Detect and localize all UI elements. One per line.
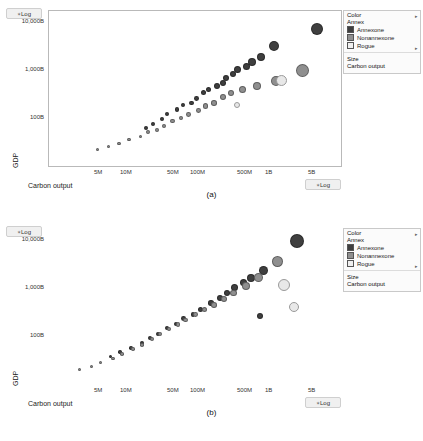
data-point[interactable] [165, 112, 169, 116]
data-point[interactable] [175, 107, 179, 111]
x-scale-pill-b[interactable]: ✶ Log [305, 397, 341, 408]
data-point[interactable] [189, 101, 194, 106]
data-point[interactable] [160, 117, 164, 121]
data-point[interactable] [194, 96, 199, 101]
data-point[interactable] [211, 302, 217, 308]
data-point[interactable] [90, 365, 93, 368]
x-scale-pill-a[interactable]: ✶ Log [305, 179, 341, 190]
data-point[interactable] [201, 90, 206, 95]
data-point[interactable] [224, 290, 230, 296]
legend-b[interactable]: Color Annex Annexone Nonannexone Rogue S… [343, 228, 421, 292]
data-point[interactable] [228, 90, 234, 96]
data-point[interactable] [78, 368, 81, 371]
data-point[interactable] [206, 87, 211, 92]
y-axis-title-b: GDP [12, 371, 19, 386]
data-point[interactable] [272, 256, 283, 267]
legend-swatch-nonannexone-icon-b [347, 252, 354, 259]
data-point[interactable] [176, 322, 180, 326]
x-scale-pill-label-b: Log [320, 400, 330, 406]
x-tick-a-3: 100M [190, 169, 205, 175]
legend-item-nonannexone-a[interactable]: Nonannexone [347, 34, 417, 41]
legend-color-menu-icon-b[interactable]: ▸ [415, 231, 418, 237]
legend-a[interactable]: Color Annex Annexone Nonannexone Rogue S… [343, 10, 421, 74]
data-point[interactable] [196, 108, 201, 113]
data-point[interactable] [242, 282, 250, 290]
data-point[interactable] [203, 103, 208, 108]
data-point[interactable] [257, 313, 263, 319]
data-point[interactable] [239, 86, 246, 93]
data-point[interactable] [158, 332, 162, 336]
scatter-panel-b[interactable] [48, 228, 340, 383]
legend-item-rogue-a[interactable]: Rogue [347, 42, 417, 49]
data-point[interactable] [120, 352, 124, 356]
x-tick-b-0: 5M [94, 387, 102, 393]
data-point[interactable] [111, 357, 114, 360]
legend-item-annexone-b[interactable]: Annexone [347, 244, 417, 251]
x-tick-b-4: 500M [237, 387, 252, 393]
data-point[interactable] [220, 94, 226, 100]
data-point[interactable] [220, 80, 226, 86]
data-point[interactable] [202, 307, 207, 312]
x-tick-a-4: 500M [237, 169, 252, 175]
y-tick-a-1: 1,000B [8, 66, 44, 72]
legend-label-nonannexone-b: Nonannexone [357, 253, 394, 259]
data-point[interactable] [170, 119, 174, 123]
y-tick-b-0: 10,000B [8, 236, 44, 242]
scatter-panel-a[interactable] [48, 10, 342, 167]
legend-color-section-b: Color Annex Annexone Nonannexone Rogue [344, 229, 420, 268]
data-point[interactable] [230, 71, 236, 77]
y-scale-pill-label-b: Log [21, 229, 31, 235]
data-point[interactable] [99, 361, 102, 364]
y-tick-b-1: 1,000B [8, 284, 44, 290]
legend-color-menu-icon-a[interactable]: ▸ [415, 13, 418, 19]
data-point[interactable] [107, 145, 110, 148]
legend-size-menu-icon-a[interactable]: ▸ [415, 45, 418, 51]
data-point[interactable] [183, 318, 188, 323]
data-point[interactable] [181, 103, 185, 107]
data-point[interactable] [311, 23, 323, 35]
data-point[interactable] [193, 312, 198, 317]
legend-item-annexone-a[interactable]: Annexone [347, 26, 417, 33]
data-point[interactable] [127, 138, 131, 142]
data-point[interactable] [117, 142, 121, 146]
legend-swatch-nonannexone-icon-a [347, 34, 354, 41]
data-point[interactable] [179, 116, 183, 120]
data-point[interactable] [269, 41, 279, 51]
data-point[interactable] [253, 82, 261, 90]
legend-color-field-b: Annex [347, 237, 417, 243]
legend-item-nonannexone-b[interactable]: Nonannexone [347, 252, 417, 259]
figure-b: ✶ Log 10,000B 1,000B 100B 5M 10M 50M 100… [0, 218, 423, 428]
legend-swatch-rogue-icon-a [347, 42, 354, 49]
data-point[interactable] [131, 347, 135, 351]
data-point[interactable] [234, 102, 240, 108]
data-point[interactable] [139, 135, 143, 139]
data-point[interactable] [230, 290, 236, 296]
legend-label-annexone-b: Annexone [357, 245, 384, 251]
data-point[interactable] [289, 302, 299, 312]
data-point[interactable] [140, 343, 144, 347]
legend-item-rogue-b[interactable]: Rogue [347, 260, 417, 267]
legend-label-nonannexone-a: Nonannexone [357, 35, 394, 41]
data-point[interactable] [144, 126, 148, 130]
data-point[interactable] [151, 122, 155, 126]
legend-size-menu-icon-b[interactable]: ▸ [415, 263, 418, 269]
legend-color-field-a: Annex [347, 19, 417, 25]
data-point[interactable] [254, 273, 263, 282]
data-point[interactable] [221, 296, 227, 302]
data-point[interactable] [167, 327, 171, 331]
data-point[interactable] [155, 128, 159, 132]
data-point[interactable] [276, 75, 287, 86]
data-point[interactable] [290, 234, 304, 248]
data-point[interactable] [150, 337, 154, 341]
data-point[interactable] [96, 148, 99, 151]
data-point[interactable] [243, 63, 250, 70]
data-point[interactable] [214, 83, 220, 89]
data-point[interactable] [296, 64, 309, 77]
data-point[interactable] [211, 100, 217, 106]
data-point[interactable] [146, 130, 150, 134]
data-point[interactable] [278, 279, 290, 291]
data-point[interactable] [186, 112, 191, 117]
data-point[interactable] [162, 124, 166, 128]
data-point[interactable] [257, 53, 265, 61]
legend-label-annexone-a: Annexone [357, 27, 384, 33]
